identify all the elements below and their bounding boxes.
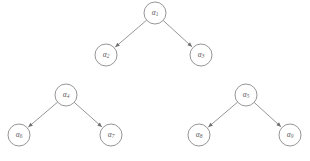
tree-forest-diagram: α1α2α3α4α6α7α5α8α9 — [0, 0, 310, 161]
node-a8[interactable]: α8 — [188, 124, 210, 146]
node-a6[interactable]: α6 — [8, 124, 30, 146]
node-label-subscript-a4: 4 — [67, 93, 70, 99]
node-layer: α1α2α3α4α6α7α5α8α9 — [8, 2, 301, 146]
figure-canvas: α1α2α3α4α6α7α5α8α9 — [0, 0, 310, 161]
node-a2[interactable]: α2 — [95, 44, 117, 66]
node-label-subscript-a7: 7 — [112, 133, 115, 139]
node-a7[interactable]: α7 — [100, 124, 122, 146]
edge-a5-to-a8 — [208, 102, 237, 127]
node-a4[interactable]: α4 — [55, 84, 77, 106]
edge-a4-to-a6 — [28, 102, 57, 127]
node-label-subscript-a1: 1 — [156, 11, 159, 17]
node-label-subscript-a6: 6 — [20, 133, 23, 139]
figure-caption — [0, 153, 310, 161]
edge-layer — [28, 20, 281, 127]
node-a1[interactable]: α1 — [144, 2, 166, 24]
edge-a1-to-a3 — [163, 20, 192, 46]
node-a5[interactable]: α5 — [235, 84, 257, 106]
edge-a4-to-a7 — [74, 102, 102, 127]
edge-a1-to-a2 — [115, 20, 146, 47]
node-a9[interactable]: α9 — [279, 124, 301, 146]
node-label-subscript-a9: 9 — [291, 133, 294, 139]
node-label-subscript-a5: 5 — [247, 93, 250, 99]
node-label-subscript-a8: 8 — [200, 133, 203, 139]
node-label-subscript-a3: 3 — [201, 53, 205, 59]
node-label-subscript-a2: 2 — [107, 53, 110, 59]
node-a3[interactable]: α3 — [190, 44, 212, 66]
edge-a5-to-a9 — [254, 102, 281, 126]
